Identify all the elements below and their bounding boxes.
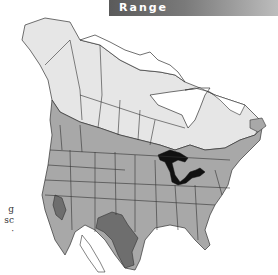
range-map: [0, 0, 278, 275]
side-text-fragments: g sc ·: [0, 204, 14, 237]
section-header: Range: [109, 0, 278, 16]
side-text-line: ·: [0, 226, 14, 237]
side-text-line: sc: [0, 215, 14, 226]
section-title: Range: [119, 0, 168, 15]
gulf-of-california: [80, 235, 105, 272]
side-text-line: g: [0, 204, 14, 215]
